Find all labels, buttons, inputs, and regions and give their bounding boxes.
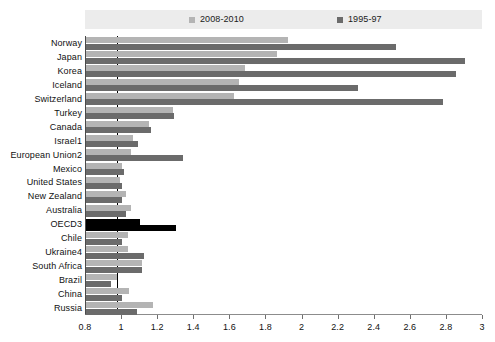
bar bbox=[86, 135, 133, 141]
x-axis-tick bbox=[446, 315, 447, 319]
x-axis-tick-label: 0.8 bbox=[79, 322, 92, 332]
bar bbox=[86, 232, 128, 238]
x-axis-tick-label: 2.4 bbox=[367, 322, 380, 332]
bar-group bbox=[86, 162, 482, 176]
x-axis-tick bbox=[121, 315, 122, 319]
bar bbox=[86, 141, 138, 147]
bar bbox=[86, 37, 288, 43]
bar-group bbox=[86, 106, 482, 120]
bar bbox=[86, 197, 122, 203]
bar-group bbox=[86, 78, 482, 92]
bar-group bbox=[86, 301, 482, 315]
bar bbox=[86, 93, 234, 99]
y-axis-labels: NorwayJapanKoreaIcelandSwitzerlandTurkey… bbox=[0, 36, 82, 315]
bar-chart: 2008-2010 1995-97 NorwayJapanKoreaIcelan… bbox=[0, 0, 495, 342]
x-axis-tick bbox=[410, 315, 411, 319]
square-swatch-icon bbox=[189, 17, 195, 23]
y-axis-label: Mexico bbox=[0, 164, 82, 174]
bar bbox=[86, 58, 465, 64]
bar bbox=[86, 225, 176, 231]
y-axis-label: South Africa bbox=[0, 261, 82, 271]
y-axis-label: Ukraine4 bbox=[0, 247, 82, 257]
bar bbox=[86, 219, 140, 225]
bar-group bbox=[86, 287, 482, 301]
bar bbox=[86, 121, 149, 127]
bar-group bbox=[86, 50, 482, 64]
bar bbox=[86, 302, 153, 308]
y-axis-label: Russia bbox=[0, 303, 82, 313]
y-axis-label: Korea bbox=[0, 66, 82, 76]
bar bbox=[86, 246, 128, 252]
y-axis-label: Iceland bbox=[0, 80, 82, 90]
x-axis-tick-label: 1.4 bbox=[187, 322, 200, 332]
y-axis-label: Brazil bbox=[0, 275, 82, 285]
bar bbox=[86, 85, 358, 91]
x-axis-tick bbox=[193, 315, 194, 319]
x-axis-tick-label: 1.8 bbox=[259, 322, 272, 332]
bar-group bbox=[86, 203, 482, 217]
bar bbox=[86, 99, 443, 105]
x-axis-tick bbox=[229, 315, 230, 319]
x-axis-tick bbox=[374, 315, 375, 319]
bar bbox=[86, 65, 245, 71]
x-axis-tick bbox=[482, 315, 483, 319]
y-axis-label: Chile bbox=[0, 233, 82, 243]
x-axis-tick-label: 2.2 bbox=[331, 322, 344, 332]
bar-group bbox=[86, 176, 482, 190]
y-axis-label: Israel1 bbox=[0, 136, 82, 146]
bar bbox=[86, 295, 122, 301]
x-axis-tick-label: 2.6 bbox=[403, 322, 416, 332]
bar bbox=[86, 205, 131, 211]
bar bbox=[86, 253, 144, 259]
y-axis-label: United States bbox=[0, 177, 82, 187]
bar-group bbox=[86, 134, 482, 148]
legend-label: 1995-97 bbox=[348, 15, 382, 24]
bar-group bbox=[86, 245, 482, 259]
legend-entry-1995-97: 1995-97 bbox=[337, 15, 382, 24]
legend-entry-2008-2010: 2008-2010 bbox=[189, 15, 244, 24]
x-axis-tick bbox=[157, 315, 158, 319]
bars-container bbox=[86, 36, 482, 314]
bar bbox=[86, 309, 137, 315]
bar bbox=[86, 177, 120, 183]
bar-group bbox=[86, 148, 482, 162]
bar bbox=[86, 163, 122, 169]
x-axis-tick-label: 3 bbox=[479, 322, 484, 332]
plot-area bbox=[85, 36, 482, 315]
bar bbox=[86, 155, 183, 161]
bar bbox=[86, 288, 129, 294]
bar bbox=[86, 211, 126, 217]
x-axis-tick-label: 1 bbox=[119, 322, 124, 332]
y-axis-label: Norway bbox=[0, 38, 82, 48]
bar bbox=[86, 79, 239, 85]
y-axis-label: New Zealand bbox=[0, 191, 82, 201]
bar bbox=[86, 191, 126, 197]
bar-group bbox=[86, 64, 482, 78]
y-axis-label: China bbox=[0, 289, 82, 299]
square-swatch-icon bbox=[337, 17, 343, 23]
x-axis-tick-label: 1.2 bbox=[151, 322, 164, 332]
bar-group bbox=[86, 36, 482, 50]
y-axis-label: OECD3 bbox=[0, 219, 82, 229]
x-axis-tick-label: 2.8 bbox=[440, 322, 453, 332]
legend-label: 2008-2010 bbox=[200, 15, 244, 24]
y-axis-label: Canada bbox=[0, 122, 82, 132]
y-axis-label: Switzerland bbox=[0, 94, 82, 104]
bar-group bbox=[86, 231, 482, 245]
x-axis-tick bbox=[302, 315, 303, 319]
bar bbox=[86, 183, 122, 189]
y-axis-label: Japan bbox=[0, 52, 82, 62]
bar bbox=[86, 260, 142, 266]
x-axis-tick-label: 2 bbox=[299, 322, 304, 332]
bar bbox=[86, 113, 174, 119]
x-axis-tick bbox=[265, 315, 266, 319]
bar-group bbox=[86, 92, 482, 106]
y-axis-label: European Union2 bbox=[0, 150, 82, 160]
bar-group bbox=[86, 273, 482, 287]
bar-group bbox=[86, 120, 482, 134]
bar-group bbox=[86, 259, 482, 273]
bar bbox=[86, 274, 117, 280]
bar bbox=[86, 127, 151, 133]
bar bbox=[86, 239, 122, 245]
bar bbox=[86, 51, 277, 57]
